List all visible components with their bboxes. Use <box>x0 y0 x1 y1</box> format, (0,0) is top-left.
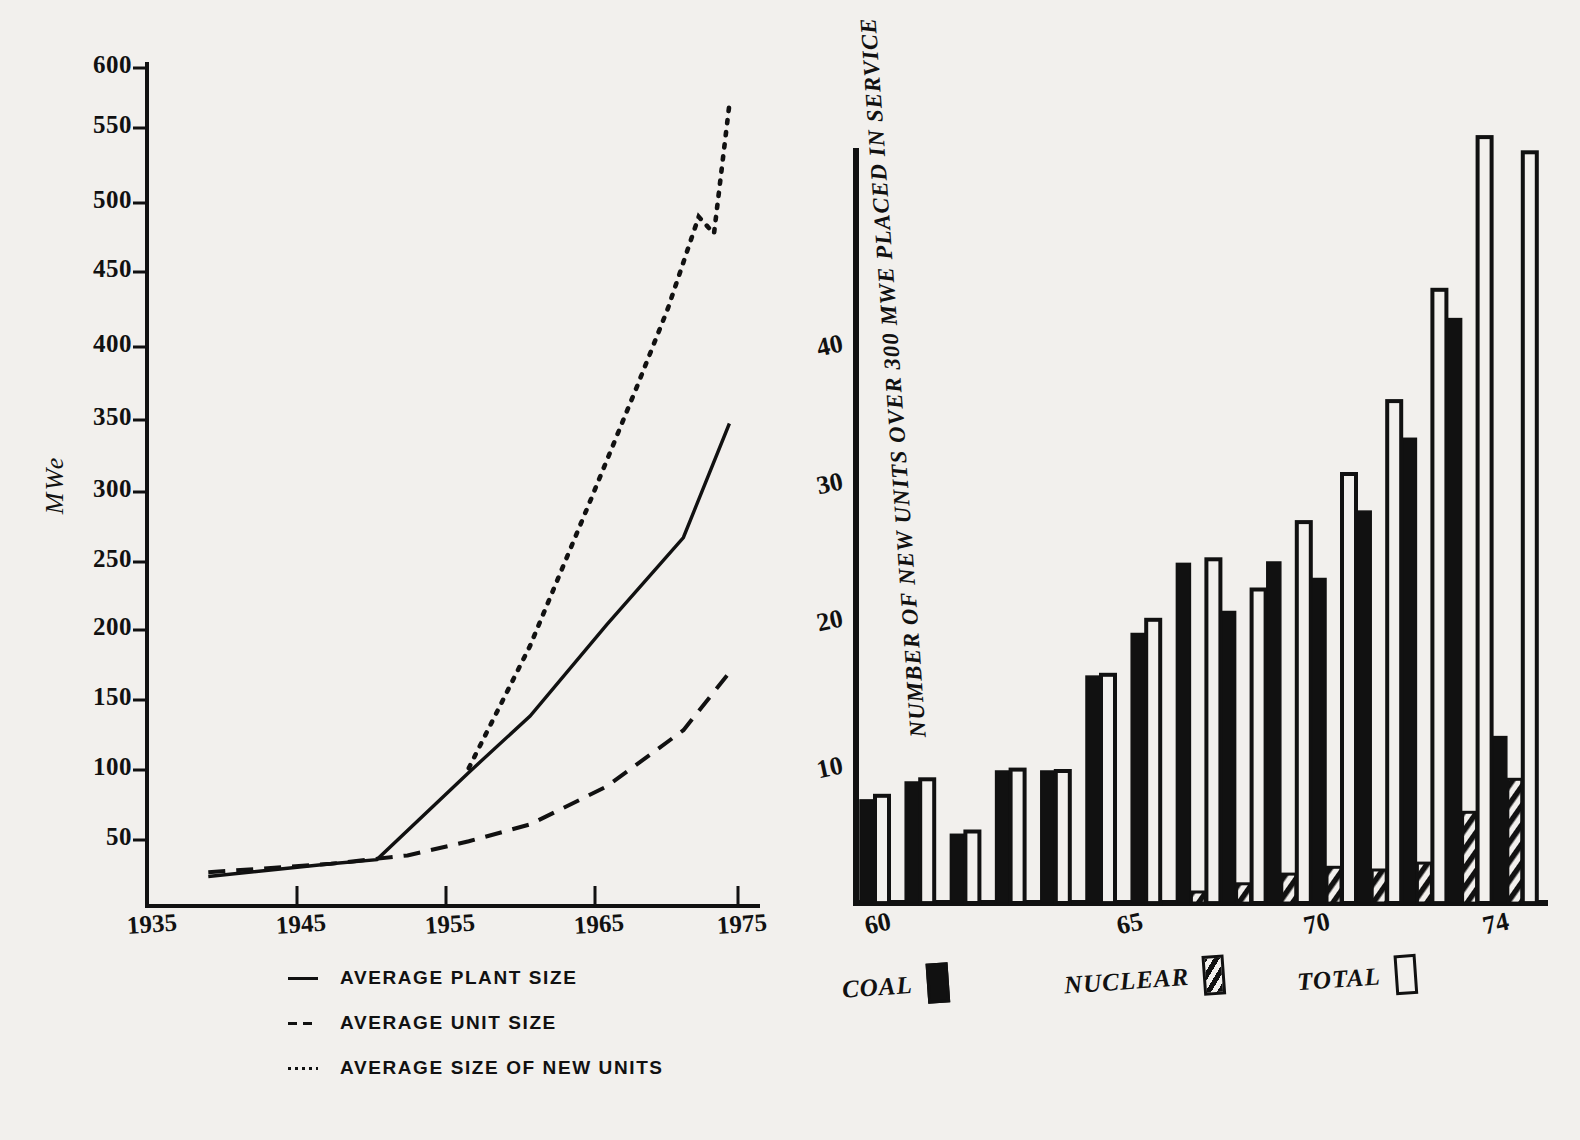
legend-item-total[interactable]: TOTAL <box>1296 954 1418 1002</box>
legend-item-nuclear[interactable]: NUCLEAR <box>1063 954 1226 1005</box>
bar-coal[interactable] <box>1402 438 1416 903</box>
legend-label-coal: COAL <box>841 971 913 1004</box>
y-tick-label: 350 <box>42 403 132 431</box>
x-tick-label: 1955 <box>424 909 476 940</box>
bar-coal[interactable] <box>1448 319 1462 903</box>
x-tick-label: 1975 <box>716 909 768 940</box>
bar-coal[interactable] <box>950 834 964 903</box>
bar-coal[interactable] <box>1222 612 1236 904</box>
y-tick-label: 150 <box>42 683 132 711</box>
bar-nuclear[interactable] <box>1417 863 1431 903</box>
bar-total[interactable] <box>1252 590 1266 904</box>
bar-group[interactable] <box>996 770 1025 903</box>
left-x-tick-marks <box>297 886 738 906</box>
bar-group[interactable] <box>1131 620 1160 903</box>
bar-coal[interactable] <box>1041 771 1055 903</box>
bar-chart-new-units: NUMBER OF NEW UNITS OVER 300 MWE PLACED … <box>780 0 1580 1140</box>
bar-total[interactable] <box>1297 522 1311 903</box>
x-tick-label: 1945 <box>275 909 327 940</box>
left-series-paths <box>208 104 729 876</box>
bar-total[interactable] <box>965 832 979 904</box>
solid-line-swatch <box>286 971 330 985</box>
legend-item[interactable]: AVERAGE PLANT SIZE <box>286 955 706 1000</box>
bar-group[interactable] <box>1222 590 1266 904</box>
bar-total[interactable] <box>1101 675 1115 903</box>
left-legend: AVERAGE PLANT SIZE AVERAGE UNIT SIZE AVE… <box>286 955 706 1090</box>
bar-nuclear[interactable] <box>1237 884 1251 903</box>
legend-item[interactable]: AVERAGE SIZE OF NEW UNITS <box>286 1045 706 1090</box>
bar-group[interactable] <box>1086 675 1115 903</box>
legend-item[interactable]: AVERAGE UNIT SIZE <box>286 1000 706 1045</box>
bar-group[interactable] <box>1402 290 1446 903</box>
bar-total[interactable] <box>1387 401 1401 903</box>
legend-label: AVERAGE UNIT SIZE <box>340 1012 557 1034</box>
bar-coal[interactable] <box>996 771 1010 903</box>
bar-group[interactable] <box>950 832 979 904</box>
y-tick-label: 250 <box>42 545 132 573</box>
nuclear-key-hatched <box>1202 954 1227 995</box>
x-tick-label: 1965 <box>573 909 625 940</box>
figure-page: MWe 60055050045040035030025020015010050 … <box>0 0 1580 1140</box>
legend-label-total: TOTAL <box>1296 962 1381 996</box>
legend-label: AVERAGE PLANT SIZE <box>340 967 577 989</box>
bar-total[interactable] <box>1011 770 1025 903</box>
coal-key-solid-black <box>925 962 950 1003</box>
y-tick-label: 600 <box>42 51 132 79</box>
total-key-outline <box>1393 954 1418 995</box>
bar-total[interactable] <box>1056 771 1070 903</box>
bar-total[interactable] <box>1523 152 1537 903</box>
bar-group[interactable] <box>1357 401 1401 903</box>
bar-group[interactable] <box>1267 522 1311 903</box>
bar-coal[interactable] <box>1176 563 1190 903</box>
bar-coal[interactable] <box>1267 562 1281 903</box>
bar-coal[interactable] <box>1131 634 1145 904</box>
bar-total[interactable] <box>1146 620 1160 903</box>
legend-item-coal[interactable]: COAL <box>841 962 950 1009</box>
left-y-tick-marks <box>133 68 147 840</box>
legend-label-nuclear: NUCLEAR <box>1063 963 1190 1000</box>
bar-group[interactable] <box>1493 152 1537 903</box>
bar-group[interactable] <box>1041 771 1070 903</box>
left-axes <box>147 62 760 906</box>
bar-nuclear[interactable] <box>1282 874 1296 903</box>
bar-coal[interactable] <box>1357 511 1371 903</box>
bar-coal[interactable] <box>1312 579 1326 904</box>
bar-total[interactable] <box>1342 474 1356 903</box>
legend-label: AVERAGE SIZE OF NEW UNITS <box>340 1057 664 1079</box>
right-legend: COAL NUCLEAR TOTAL <box>842 960 1462 1020</box>
bar-nuclear[interactable] <box>1372 870 1386 903</box>
y-tick-label: 500 <box>42 186 132 214</box>
bar-group[interactable] <box>905 779 934 903</box>
series-dotted <box>469 104 730 768</box>
bar-groups <box>860 137 1537 903</box>
bar-coal[interactable] <box>860 800 874 903</box>
y-tick-label: 300 <box>42 475 132 503</box>
series-solid <box>208 424 729 877</box>
bar-group[interactable] <box>1448 137 1492 903</box>
bar-coal[interactable] <box>1086 676 1100 903</box>
bar-total[interactable] <box>875 796 889 903</box>
y-tick-label: 200 <box>42 613 132 641</box>
dashed-line-swatch <box>286 1016 330 1030</box>
bar-total[interactable] <box>1432 290 1446 903</box>
bar-group[interactable] <box>1176 559 1220 903</box>
y-tick-label: 50 <box>42 823 132 851</box>
y-tick-label: 100 <box>42 753 132 781</box>
bar-nuclear[interactable] <box>1508 779 1522 903</box>
bar-nuclear[interactable] <box>1191 892 1205 903</box>
y-tick-label: 550 <box>42 111 132 139</box>
bar-group[interactable] <box>1312 474 1356 903</box>
bar-nuclear[interactable] <box>1463 812 1477 903</box>
bar-coal[interactable] <box>1493 737 1507 903</box>
bar-total[interactable] <box>1206 559 1220 903</box>
bar-coal[interactable] <box>905 782 919 903</box>
line-chart-average-sizes: MWe 60055050045040035030025020015010050 … <box>0 0 790 1140</box>
bar-total[interactable] <box>1478 137 1492 903</box>
x-tick-label: 1935 <box>126 909 178 940</box>
bar-total[interactable] <box>920 779 934 903</box>
dotted-line-swatch <box>286 1061 330 1075</box>
y-tick-label: 400 <box>42 330 132 358</box>
bar-nuclear[interactable] <box>1327 867 1341 903</box>
bar-group[interactable] <box>860 796 889 903</box>
y-tick-label: 450 <box>42 255 132 283</box>
